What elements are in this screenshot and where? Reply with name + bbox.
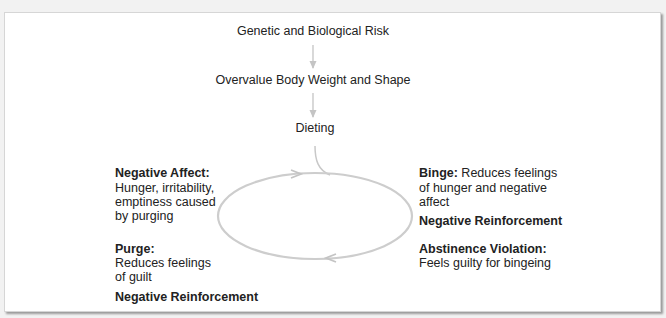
negative-affect-line: Hunger, irritability, xyxy=(115,181,214,196)
node-dieting: Dieting xyxy=(296,121,335,136)
negative-affect-line: by purging xyxy=(115,209,173,224)
cycle-ellipse xyxy=(218,173,412,259)
node-genetic-risk: Genetic and Biological Risk xyxy=(237,24,389,39)
node-overvalue-body: Overvalue Body Weight and Shape xyxy=(215,73,410,88)
binge-line: affect xyxy=(419,195,449,210)
purge-line: Reduces feelings xyxy=(115,256,211,271)
binge-first-line-rest: Reduces feelings xyxy=(458,166,557,180)
binge-line: of hunger and negative xyxy=(419,181,547,196)
abstinence-violation-title: Abstinence Violation: xyxy=(419,242,547,257)
negative-affect-line: emptiness caused xyxy=(115,195,216,210)
purge-line: of guilt xyxy=(115,270,152,285)
curve-dieting-to-cycle xyxy=(315,146,330,175)
negative-affect-title: Negative Affect: xyxy=(115,166,210,181)
binge-reinforcement: Negative Reinforcement xyxy=(419,214,562,229)
binge-first-line: Binge: Reduces feelings xyxy=(419,166,557,181)
abstinence-violation-line: Feels guilty for bingeing xyxy=(419,256,551,271)
purge-title: Purge: xyxy=(115,242,155,257)
purge-reinforcement: Negative Reinforcement xyxy=(115,290,258,305)
binge-title: Binge: xyxy=(419,166,458,180)
